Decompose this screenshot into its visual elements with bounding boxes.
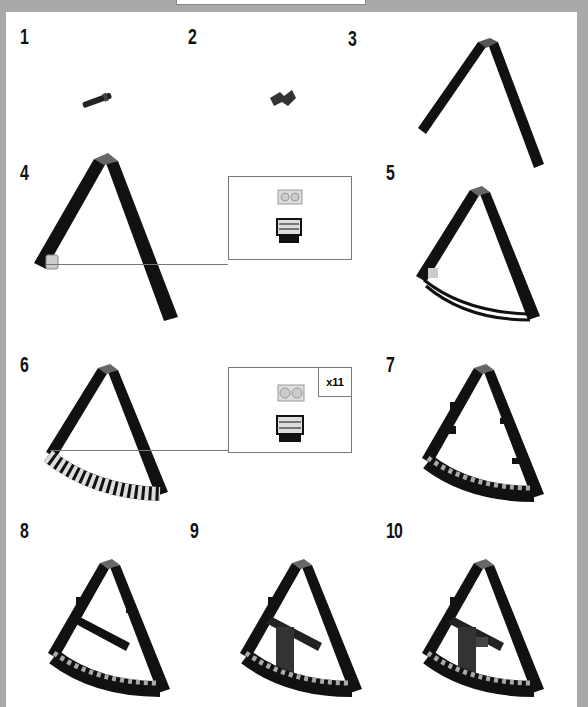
- hinge-part-icon: [275, 414, 307, 444]
- quantity-badge: x11: [318, 368, 351, 397]
- step-number-2: 2: [188, 24, 196, 50]
- step-4-illustration: [32, 147, 182, 327]
- callout-leader-line: [46, 264, 228, 265]
- step-6-illustration: [44, 362, 174, 502]
- step-number-3: 3: [348, 26, 356, 52]
- step-number-6: 6: [20, 352, 28, 378]
- parts-callout-step-4: [228, 176, 352, 260]
- instruction-page: 1 2 3 4 5: [6, 12, 577, 707]
- step-number-4: 4: [20, 160, 28, 186]
- step-number-5: 5: [386, 160, 394, 186]
- parts-callout-step-6: x11: [228, 367, 352, 453]
- step-number-8: 8: [20, 518, 28, 544]
- header-tab: [176, 0, 366, 5]
- step-7-illustration: [420, 362, 550, 502]
- step-1-illustration: [78, 90, 118, 110]
- callout-leader-line: [50, 450, 228, 451]
- tile-part-icon: [277, 189, 303, 205]
- step-8-illustration: [46, 557, 176, 697]
- hinge-part-icon: [275, 217, 305, 245]
- step-3-illustration: [416, 30, 546, 170]
- step-number-10: 10: [386, 518, 402, 544]
- step-number-1: 1: [20, 24, 28, 50]
- step-10-illustration: [420, 557, 550, 697]
- step-5-illustration: [414, 184, 544, 324]
- step-number-9: 9: [190, 518, 198, 544]
- step-9-illustration: [238, 557, 368, 697]
- step-2-illustration: [268, 86, 298, 110]
- step-number-7: 7: [386, 352, 394, 378]
- tile-part-icon: [277, 384, 305, 402]
